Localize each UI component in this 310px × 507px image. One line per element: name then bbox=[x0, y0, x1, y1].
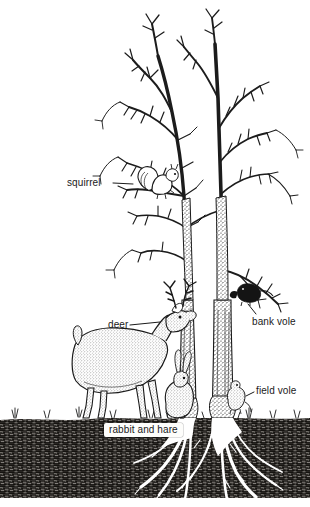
label-deer: deer bbox=[108, 320, 128, 330]
field-vole-figure bbox=[227, 381, 251, 414]
label-bank-vole: bank vole bbox=[252, 317, 296, 327]
leader-field-vole bbox=[246, 392, 254, 396]
leader-bank-vole bbox=[248, 304, 256, 314]
tree-canopy bbox=[93, 9, 303, 312]
rabbit-figure bbox=[165, 350, 193, 419]
label-squirrel: squirrel bbox=[67, 178, 101, 188]
bank-vole-figure bbox=[230, 284, 273, 306]
leader-deer bbox=[130, 322, 160, 325]
label-field-vole: field vole bbox=[256, 386, 296, 396]
label-rabbit-and-hare: rabbit and hare bbox=[104, 423, 183, 437]
illustration-canvas: squirrel deer bank vole field vole rabbi… bbox=[0, 0, 310, 507]
leader-squirrel bbox=[113, 183, 133, 184]
